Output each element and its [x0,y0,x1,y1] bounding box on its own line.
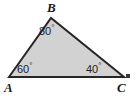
degree-symbol-a: ° [29,61,32,70]
angle-label-a: 60° [17,62,32,75]
corner-tick-mark [126,74,130,78]
angle-value-a: 60 [17,63,29,75]
angle-label-c: 40° [86,62,101,75]
vertex-label-b: B [47,1,56,14]
vertex-label-c: C [117,81,126,94]
degree-symbol-b: ° [51,23,54,32]
vertex-label-a: A [4,81,13,94]
angle-label-b: 80° [39,24,54,37]
triangle-figure: B A C 80° 60° 40° [0,0,136,97]
degree-symbol-c: ° [98,61,101,70]
angle-value-b: 80 [39,25,51,37]
angle-value-c: 40 [86,63,98,75]
triangle-shape [0,0,136,97]
